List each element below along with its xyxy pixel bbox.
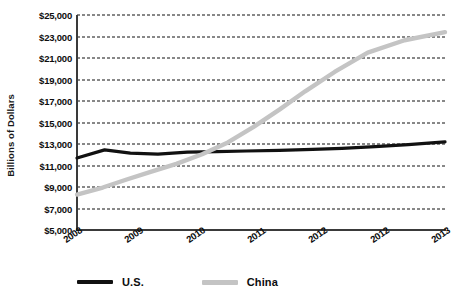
y-axis-tick-label: $17,000: [14, 96, 72, 107]
legend-label-us: U.S.: [122, 276, 144, 288]
y-axis-tick-label: $13,000: [14, 139, 72, 150]
y-axis-tick-label: $23,000: [14, 31, 72, 42]
legend-label-china: China: [247, 276, 278, 288]
legend-spacer: [144, 282, 202, 283]
y-axis-tick-label: $21,000: [14, 53, 72, 64]
x-axis-tick-labels: 2008200920102011201220122013: [77, 231, 449, 265]
legend-entry-us: U.S.: [77, 276, 144, 288]
chart-legend: U.S. China: [77, 271, 407, 293]
plot-area: [77, 15, 445, 230]
series-line-us: [77, 142, 445, 158]
y-axis-tick-label: $7,000: [14, 203, 72, 214]
legend-swatch-china-icon: [202, 280, 238, 285]
y-axis-tick-label: $11,000: [14, 160, 72, 171]
y-axis-tick-labels: $25,000$23,000$21,000$19,000$17,000$15,0…: [14, 15, 72, 230]
y-axis-tick-label: $9,000: [14, 182, 72, 193]
data-series-layer: [77, 15, 445, 230]
y-axis-tick-label: $25,000: [14, 10, 72, 21]
y-axis-tick-label: $15,000: [14, 117, 72, 128]
y-axis-tick-label: $19,000: [14, 74, 72, 85]
series-line-china: [77, 32, 445, 194]
figure-caption: [8, 293, 228, 303]
chart-figure: Billions of Dollars $25,000$23,000$21,00…: [0, 0, 452, 303]
legend-swatch-us-icon: [77, 280, 113, 284]
legend-entry-china: China: [202, 276, 278, 288]
